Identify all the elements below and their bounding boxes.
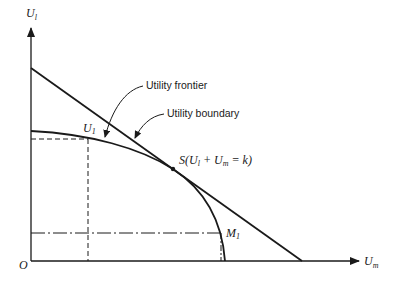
utility-frontier-curve	[31, 131, 225, 261]
y-axis-label: Ul	[26, 6, 38, 22]
utility-frontier-label: Utility frontier	[146, 79, 208, 91]
utility-boundary-label: Utility boundary	[167, 107, 240, 119]
tangent-point-label: S(Ul + Um = k)	[179, 153, 252, 168]
x-axis-label: Um	[364, 254, 379, 270]
m1-label: M1	[225, 226, 240, 241]
utility-diagram: Ul Um O Utility frontier Utility boundar…	[0, 0, 397, 283]
tangent-point-s	[171, 167, 175, 171]
boundary-pointer-arrow	[135, 114, 164, 138]
u1-label: U1	[83, 121, 96, 136]
origin-label: O	[19, 258, 28, 272]
frontier-pointer-arrow	[105, 86, 143, 137]
